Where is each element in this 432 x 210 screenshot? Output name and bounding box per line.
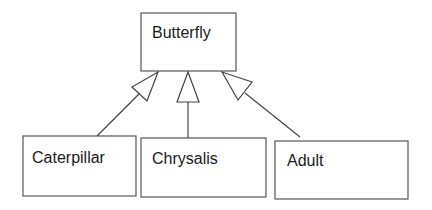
- class-label-chrysalis: Chrysalis: [152, 150, 218, 167]
- class-chrysalis: Chrysalis: [141, 138, 266, 197]
- class-box-chrysalis: [141, 138, 266, 197]
- class-butterfly: Butterfly: [141, 13, 236, 71]
- class-label-adult: Adult: [287, 152, 324, 169]
- class-label-butterfly: Butterfly: [152, 24, 211, 41]
- hollow-triangle-arrowhead-icon: [177, 72, 199, 102]
- class-caterpillar: Caterpillar: [23, 136, 136, 196]
- class-label-caterpillar: Caterpillar: [32, 149, 106, 166]
- generalization-chrysalis: [177, 72, 199, 138]
- class-box-adult: [275, 141, 408, 199]
- inheritance-diagram: Butterfly Caterpillar Chrysalis Adult: [0, 0, 432, 210]
- class-box-butterfly: [141, 13, 236, 71]
- edge-line: [245, 93, 300, 137]
- hollow-triangle-arrowhead-icon: [222, 72, 252, 100]
- class-box-caterpillar: [23, 136, 136, 196]
- class-adult: Adult: [275, 141, 408, 199]
- edge-line: [97, 94, 139, 136]
- generalization-caterpillar: [97, 72, 158, 136]
- generalization-adult: [222, 72, 300, 137]
